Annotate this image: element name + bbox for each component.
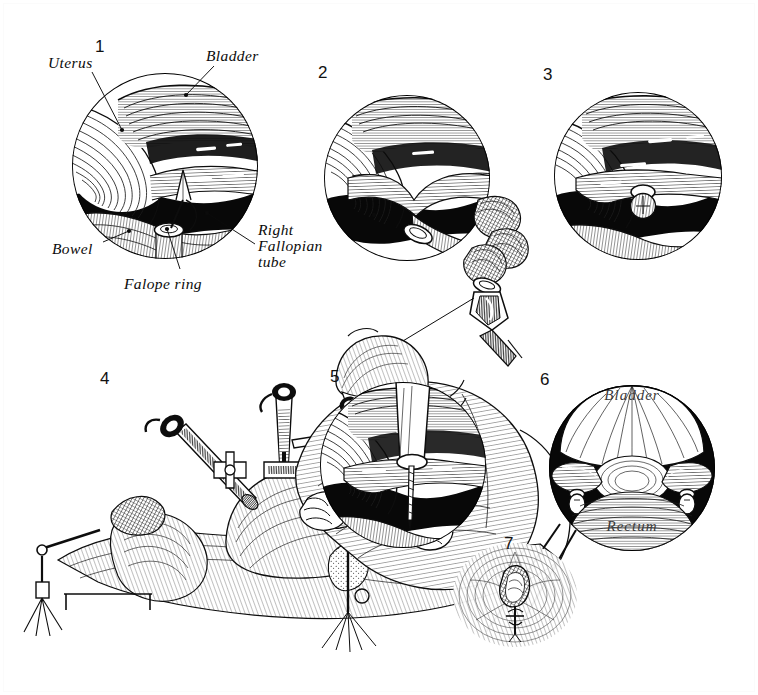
panel-6-rectum-inked-label: Rectum xyxy=(606,518,658,534)
panel-2-artwork xyxy=(322,93,528,366)
patient-body xyxy=(24,467,576,652)
panel-1-leader-lines xyxy=(92,66,255,269)
panel-number-7: 7 xyxy=(504,535,513,552)
laparoscopy-instruments xyxy=(146,383,384,512)
panel-number-6: 6 xyxy=(540,371,549,388)
panel-number-2: 2 xyxy=(318,64,327,81)
panel-number-4: 4 xyxy=(100,370,109,387)
panel-7-artwork xyxy=(453,543,577,647)
label-uterus: Uterus xyxy=(48,55,93,71)
panel-5-artwork xyxy=(320,382,486,552)
panel-3-artwork xyxy=(554,92,724,262)
label-right-fallopian-tube: Right Fallopian tube xyxy=(258,222,323,269)
panel-number-5: 5 xyxy=(330,368,339,385)
illustration-plate: Bladder Rectum xyxy=(0,0,758,695)
ink-artwork-layer: Bladder Rectum xyxy=(0,0,758,695)
label-bladder: Bladder xyxy=(206,48,259,64)
panel-number-1: 1 xyxy=(95,38,104,55)
panel-6-artwork: Bladder Rectum xyxy=(549,385,715,551)
plate-border xyxy=(3,3,755,692)
panel-6-bladder-inked-label: Bladder xyxy=(604,387,659,403)
label-falope-ring: Falope ring xyxy=(124,276,202,292)
panel-1-leader-dots xyxy=(120,93,209,233)
panel-1-artwork xyxy=(66,66,262,269)
label-bowel: Bowel xyxy=(52,241,93,257)
panel-2-external-instrument xyxy=(388,196,528,366)
panel-number-3: 3 xyxy=(543,66,552,83)
